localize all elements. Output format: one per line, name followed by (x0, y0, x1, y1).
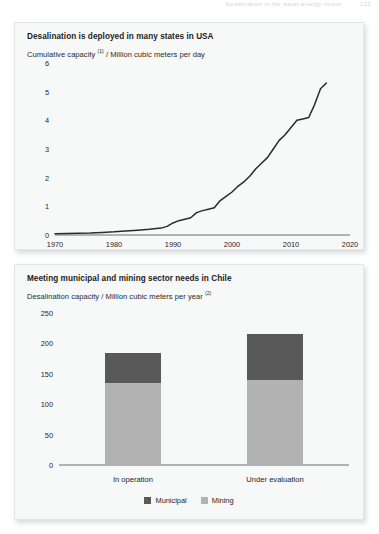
bar-plot-area: 050100150200250 In operationUnder evalua… (59, 313, 349, 465)
y-tick-label: 100 (41, 400, 53, 409)
footnote-marker-2: (2) (205, 290, 211, 296)
page-number: 123 (360, 1, 371, 7)
legend-item-mining[interactable]: Mining (201, 496, 234, 505)
x-tick-label: 2020 (342, 240, 358, 249)
x-tick-label: 2010 (283, 240, 299, 249)
y-tick-label: 4 (45, 116, 49, 125)
legend-item-municipal[interactable]: Municipal (144, 496, 186, 505)
chart-subtitle-chile: Desalination capacity / Million cubic me… (27, 290, 211, 301)
legend-label: Mining (212, 496, 234, 505)
running-head-text: Desalination in the water-energy nexus (226, 1, 341, 7)
legend-swatch-icon (144, 497, 151, 504)
legend-swatch-icon (201, 497, 208, 504)
x-tick-label: 2000 (224, 240, 240, 249)
y-tick-label: 250 (41, 309, 53, 318)
chart-title-usa: Desalination is deployed in many states … (27, 32, 214, 41)
x-tick-label: 1970 (47, 240, 63, 249)
capacity-line-svg (55, 63, 350, 235)
chart-title-chile: Meeting municipal and mining sector need… (27, 274, 232, 283)
y-tick-label: 6 (45, 59, 49, 68)
bar-segment-municipal[interactable] (247, 334, 303, 380)
y-tick-label: 0 (49, 461, 53, 470)
y-tick-label: 5 (45, 87, 49, 96)
bar-segment-mining[interactable] (105, 383, 161, 465)
y-tick-label: 3 (45, 145, 49, 154)
bar-axis-svg (59, 313, 349, 465)
line-plot-area: 0123456 197019801990200020102020 (55, 63, 350, 235)
bar-segment-mining[interactable] (247, 380, 303, 465)
bar-segment-municipal[interactable] (105, 353, 161, 383)
category-label: In operation (113, 475, 153, 484)
subtitle-main-text: Cumulative capacity (27, 50, 97, 59)
y-tick-label: 2 (45, 173, 49, 182)
page-running-header: Desalination in the water-energy nexus 1… (0, 0, 379, 14)
subtitle-rest-text: / Million cubic meters per day (104, 50, 205, 59)
x-tick-label: 1990 (165, 240, 181, 249)
subtitle-main-text: Desalination capacity / Million cubic me… (27, 292, 205, 301)
capacity-data-line (55, 83, 326, 234)
chart-subtitle-usa: Cumulative capacity (1) / Million cubic … (27, 48, 205, 59)
chart-legend: MunicipalMining (15, 496, 363, 505)
y-tick-label: 50 (45, 430, 53, 439)
y-tick-label: 150 (41, 369, 53, 378)
legend-label: Municipal (155, 496, 186, 505)
category-label: Under evaluation (246, 475, 303, 484)
y-tick-label: 1 (45, 202, 49, 211)
y-tick-label: 0 (45, 231, 49, 240)
x-tick-label: 1980 (106, 240, 122, 249)
y-tick-label: 200 (41, 339, 53, 348)
chart-panel-usa: Desalination is deployed in many states … (14, 22, 364, 250)
chart-panel-chile: Meeting municipal and mining sector need… (14, 264, 364, 520)
